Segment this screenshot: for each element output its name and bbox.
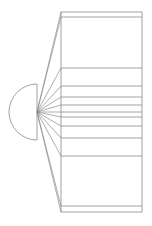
bar-of-pie-chart [0, 0, 152, 226]
pie-spoke [37, 17, 61, 112]
pie-spoke [37, 112, 61, 212]
pie-spokes [37, 12, 61, 212]
pie-arc [9, 84, 37, 140]
stacked-bar [61, 12, 142, 212]
chart-canvas [0, 0, 152, 226]
pie [9, 84, 37, 140]
